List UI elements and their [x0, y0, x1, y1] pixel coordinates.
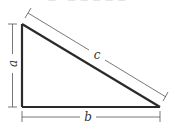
label-a: a	[6, 60, 20, 67]
label-c: c	[94, 48, 101, 62]
side-c-hypotenuse	[22, 24, 160, 107]
dimension-c-line-upper	[28, 13, 89, 50]
dimension-b: b	[22, 110, 160, 124]
triangle	[22, 24, 160, 107]
dimension-c: c	[25, 8, 168, 101]
right-triangle-diagram: a b c	[0, 0, 174, 128]
dimension-a: a	[6, 24, 20, 107]
label-b: b	[84, 110, 92, 124]
